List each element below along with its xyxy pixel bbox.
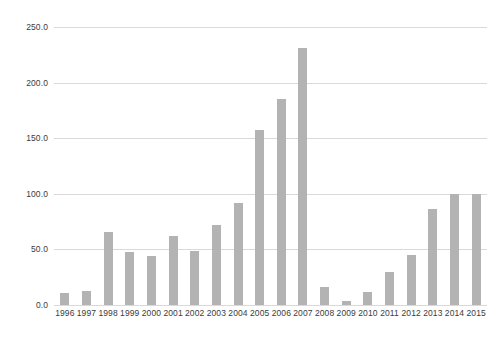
bar[interactable]	[82, 291, 91, 305]
x-tick-label: 2015	[465, 309, 487, 318]
y-tick-label: 150.0	[26, 134, 48, 143]
y-tick-label: 50.0	[31, 245, 48, 254]
bar[interactable]	[147, 256, 156, 305]
x-tick-label: 2005	[249, 309, 271, 318]
bar[interactable]	[363, 292, 372, 305]
y-tick-label: 100.0	[26, 190, 48, 199]
bar[interactable]	[342, 301, 351, 305]
x-tick-label: 2008	[314, 309, 336, 318]
x-tick-label: 2013	[422, 309, 444, 318]
bar[interactable]	[169, 236, 178, 305]
bar[interactable]	[104, 232, 113, 305]
bar[interactable]	[190, 251, 199, 305]
x-tick-label: 1999	[119, 309, 141, 318]
bar[interactable]	[450, 194, 459, 305]
x-tick-label: 2009	[335, 309, 357, 318]
bar[interactable]	[125, 252, 134, 305]
bar[interactable]	[60, 293, 69, 305]
plot-area	[54, 27, 487, 305]
bar[interactable]	[407, 255, 416, 305]
x-tick-label: 2007	[292, 309, 314, 318]
bar[interactable]	[385, 272, 394, 305]
bar[interactable]	[472, 194, 481, 305]
x-tick-label: 2004	[227, 309, 249, 318]
x-tick-label: 1997	[76, 309, 98, 318]
bar[interactable]	[277, 99, 286, 305]
bar-series	[54, 27, 487, 305]
x-tick-label: 2000	[141, 309, 163, 318]
bar[interactable]	[428, 209, 437, 305]
y-axis-tick-labels: 0.050.0100.0150.0200.0250.0	[0, 0, 48, 340]
x-tick-label: 2002	[184, 309, 206, 318]
x-tick-label: 2006	[271, 309, 293, 318]
bar[interactable]	[234, 203, 243, 305]
bar[interactable]	[212, 225, 221, 305]
x-tick-label: 2014	[444, 309, 466, 318]
bar[interactable]	[320, 287, 329, 305]
x-tick-label: 1996	[54, 309, 76, 318]
x-tick-label: 2012	[400, 309, 422, 318]
x-tick-label: 2010	[357, 309, 379, 318]
x-axis-tick-labels: 1996199719981999200020012002200320042005…	[54, 309, 487, 327]
x-tick-label: 2003	[206, 309, 228, 318]
x-tick-label: 2001	[162, 309, 184, 318]
y-tick-label: 200.0	[26, 79, 48, 88]
bar[interactable]	[298, 48, 307, 305]
bar-chart: 0.050.0100.0150.0200.0250.0 199619971998…	[0, 0, 502, 340]
x-tick-label: 1998	[97, 309, 119, 318]
bar[interactable]	[255, 130, 264, 305]
y-tick-label: 250.0	[26, 23, 48, 32]
gridline	[54, 305, 487, 306]
y-tick-label: 0.0	[36, 301, 48, 310]
x-tick-label: 2011	[379, 309, 401, 318]
